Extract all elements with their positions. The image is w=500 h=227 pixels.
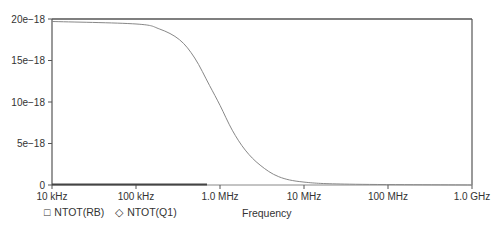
diamond-marker-icon: ◇	[115, 206, 123, 218]
legend-item-ntot-rb: □NTOT(RB)	[44, 206, 108, 218]
x-tick-label: 100 MHz	[368, 191, 408, 202]
y-tick-label: 5e−18	[17, 138, 46, 149]
chart-canvas: 05e−1810e−1815e−1820e−18 10 kHz100 kHz1.…	[0, 0, 500, 227]
y-tick-label: 10e−18	[11, 97, 45, 108]
legend: □NTOT(RB) ◇NTOT(Q1)	[44, 206, 185, 218]
y-tick-label: 0	[39, 180, 45, 191]
square-marker-icon: □	[44, 206, 50, 218]
y-tick-label: 15e−18	[11, 55, 45, 66]
legend-item-ntot-q1: ◇NTOT(Q1)	[115, 206, 180, 218]
x-tick-label: 1.0 GHz	[454, 191, 491, 202]
x-tick-label: 1.0 MHz	[201, 191, 238, 202]
x-tick-label: 10 kHz	[36, 191, 67, 202]
plot-frame	[52, 19, 472, 185]
x-axis-label: Frequency	[242, 207, 292, 219]
y-axis: 05e−1810e−1815e−1820e−18	[11, 14, 52, 191]
x-axis: 10 kHz100 kHz1.0 MHz10 MHz100 MHz1.0 GHz	[36, 185, 490, 202]
series-line-ntot-q1-	[52, 21, 472, 185]
y-tick-label: 20e−18	[11, 14, 45, 25]
legend-label: NTOT(Q1)	[127, 206, 176, 218]
series-layer	[52, 21, 472, 185]
x-tick-label: 10 MHz	[287, 191, 321, 202]
legend-label: NTOT(RB)	[54, 206, 104, 218]
x-tick-label: 100 kHz	[118, 191, 155, 202]
